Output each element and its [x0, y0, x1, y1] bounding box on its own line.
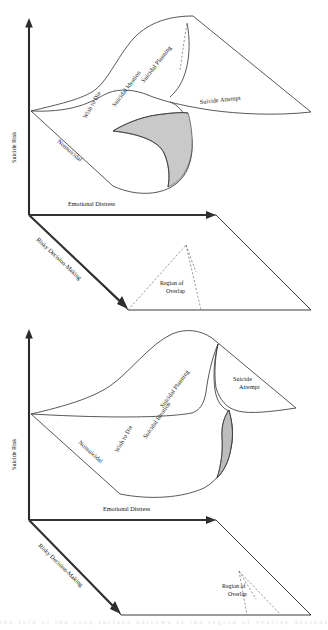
control-plane-outline-b: [29, 520, 311, 615]
top-panel: Suicide Risk Emotional Distress Risky De…: [0, 0, 328, 318]
x-axis-label-top: Emotional Distress: [68, 200, 116, 207]
top-panel-svg: Suicide Risk Emotional Distress Risky De…: [0, 0, 328, 318]
lower-sheet-outline-b: [31, 411, 232, 497]
z-axis-arrowhead: [117, 296, 128, 309]
z-axis-label-bottom: Risky Decision-Making: [37, 542, 85, 588]
region-label-nonsuicidal-bottom: Nonsuicidal: [77, 439, 104, 464]
region-label-nonsuicidal-top: Nonsuicidal: [56, 138, 83, 163]
x-axis-label-bottom: Emotional Distress: [103, 505, 151, 512]
control-plane-bottom: [29, 520, 311, 615]
cusp-surface-outline: [31, 16, 311, 114]
overlap-right-boundary: [186, 245, 201, 310]
overlap-label-line1-top: Region ofOverlap: [160, 280, 185, 294]
region-label-wish-to-die-bottom: Wish to Die: [114, 424, 134, 454]
cusp-surface-top: [31, 16, 311, 193]
y-axis-label-bottom: Suicide Risk: [10, 438, 17, 470]
control-plane-outline: [29, 215, 311, 310]
cropped-caption: the fold of the cusp surface narrows as …: [0, 619, 328, 630]
bottom-panel-svg: Suicide Risk Emotional Distress Risky De…: [0, 318, 328, 630]
control-plane-top: [29, 215, 311, 310]
overlap-cusp-point: [186, 245, 196, 272]
y-axis-label-top: Suicide Risk: [10, 131, 17, 163]
z-axis-arrowhead-b: [110, 601, 121, 614]
bottom-panel: Suicide Risk Emotional Distress Risky De…: [0, 318, 328, 630]
y-axis-arrowhead-b: [25, 329, 33, 339]
fold-region-shaded: [113, 113, 192, 187]
y-axis-arrowhead: [25, 18, 33, 28]
overlap-left-boundary: [128, 245, 186, 310]
overlap-label-bottom: Region ofOverlap: [222, 583, 247, 597]
